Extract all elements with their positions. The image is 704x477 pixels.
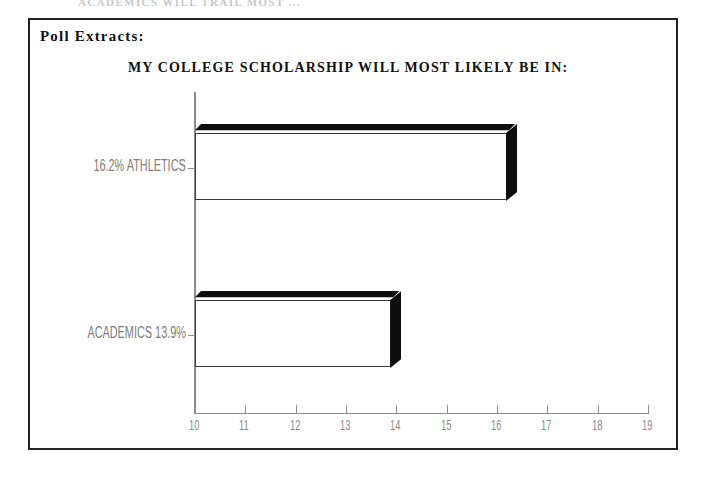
x-axis-tick [598, 405, 599, 414]
x-axis-tick-label: 11 [239, 416, 249, 433]
x-axis-line [195, 413, 648, 414]
category-tick [188, 168, 195, 169]
bar[interactable] [195, 124, 518, 201]
category-label: 16.2% ATHLETICS [94, 157, 186, 175]
bar[interactable] [195, 291, 402, 368]
bar-side-shadow [506, 124, 517, 201]
x-axis-tick-label: 16 [491, 416, 501, 433]
x-axis-tick-label: 12 [290, 416, 300, 433]
x-axis-tick [447, 405, 448, 414]
x-axis-tick [296, 405, 297, 414]
x-axis-tick [346, 405, 347, 414]
bar-front-face [195, 133, 507, 200]
category-tick [188, 335, 195, 336]
x-axis-tick-label: 17 [541, 416, 551, 433]
x-axis-tick [396, 405, 397, 414]
x-axis-tick-label: 13 [340, 416, 350, 433]
x-axis-tick [497, 405, 498, 414]
x-axis-tick-label: 14 [390, 416, 400, 433]
x-axis-tick [547, 405, 548, 414]
x-axis-tick-label: 19 [642, 416, 652, 433]
category-label: ACADEMICS 13.9% [87, 324, 186, 342]
x-axis-tick [245, 405, 246, 414]
bar-chart-plot: 10111213141516171819 16.2% ATHLETICSACAD… [0, 0, 704, 477]
x-axis-tick-label: 15 [441, 416, 451, 433]
bar-side-shadow [390, 291, 401, 368]
bar-front-face [195, 300, 391, 367]
x-axis-tick-label: 18 [592, 416, 602, 433]
x-axis-tick-label: 10 [189, 416, 199, 433]
x-axis-tick [195, 405, 196, 414]
page-root: ACADEMICS WILL TRAIL MOST ... Poll Extra… [0, 0, 704, 477]
x-axis-tick [648, 405, 649, 414]
